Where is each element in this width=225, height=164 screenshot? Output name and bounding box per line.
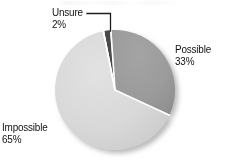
slice-label-unsure-name: Unsure xyxy=(52,6,83,18)
unsure-leader-line xyxy=(87,14,111,32)
slice-label-unsure-value: 2% xyxy=(52,19,83,31)
slice-label-impossible: Impossible 65% xyxy=(2,122,48,145)
slice-label-possible-name: Possible xyxy=(175,43,211,55)
pie-chart-figure: Unsure 2% Possible 33% Impossible 65% xyxy=(0,0,225,164)
slice-label-impossible-name: Impossible xyxy=(2,121,48,133)
slice-label-possible-value: 33% xyxy=(175,56,211,68)
slice-label-possible: Possible 33% xyxy=(175,44,211,67)
slice-label-impossible-value: 65% xyxy=(2,134,48,146)
slice-label-unsure: Unsure 2% xyxy=(52,7,83,30)
